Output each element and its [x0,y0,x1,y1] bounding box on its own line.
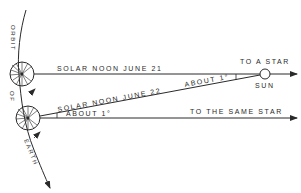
rotation-arrow-icon [30,89,35,94]
rotation-arrow-icon-lower [34,132,40,138]
orbit-label-mid: OF [9,91,15,103]
orbit-label-top: ORBIT [10,25,16,51]
label-about-1-degree-earth: ABOUT 1° [66,110,111,117]
earth-globe-june22 [16,106,40,130]
sidereal-solar-day-diagram: ORBIT OF EARTH SOLAR NOON JUNE 21 SOLAR … [0,0,301,193]
orbit-label-group: ORBIT OF EARTH [9,25,39,167]
label-sun: SUN [255,82,275,89]
label-to-the-same-star: TO THE SAME STAR [190,108,283,115]
label-about-1-degree-sun: ABOUT 1° [184,73,230,88]
label-solar-noon-june21: SOLAR NOON JUNE 21 [57,65,162,72]
sun-circle [260,69,270,79]
orbit-label-bottom: EARTH [23,138,39,166]
earth-globe-june21 [10,62,34,86]
label-to-a-star: TO A STAR [240,58,290,65]
